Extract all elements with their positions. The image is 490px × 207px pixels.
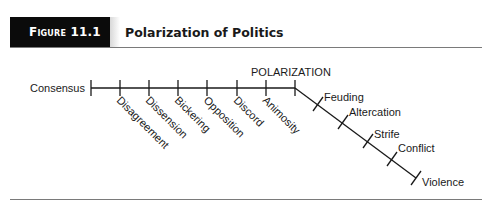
polarization-label: POLARIZATION [251, 66, 331, 78]
stage-label-conflict: Conflict [398, 142, 435, 154]
stage-label-strife: Strife [374, 128, 400, 140]
footer-rule [10, 199, 482, 200]
stage-label-violence: Violence [422, 176, 464, 188]
consensus-label: Consensus [30, 82, 86, 94]
polarization-diagram: Consensus Disagreement Dissension Bicker… [0, 0, 490, 207]
stage-label-altercation: Altercation [349, 106, 401, 118]
stage-label-feuding: Feuding [324, 91, 364, 103]
stage-label-disagreement: Disagreement [115, 94, 172, 151]
stage-label-animosity: Animosity [261, 94, 304, 137]
